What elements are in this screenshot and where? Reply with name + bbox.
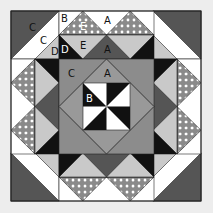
edge-unit-bottom	[59, 153, 154, 201]
corner-unit-bottom-right	[153, 153, 201, 201]
label-c-1: C	[29, 22, 36, 33]
label-c-2: C	[40, 35, 47, 46]
label-e-2: E	[80, 40, 86, 51]
label-a-3: A	[104, 68, 111, 79]
edge-unit-right	[153, 59, 201, 154]
label-b-2: B	[98, 84, 105, 95]
corner-unit-bottom-left	[11, 153, 59, 201]
label-a-2: A	[104, 44, 111, 55]
label-d-2: D	[61, 44, 69, 55]
pinwheel	[83, 83, 130, 130]
label-a-1: A	[104, 15, 111, 26]
label-b-3: B	[86, 93, 93, 104]
quilt-block-diagram: C C D B E A D E A C A B B	[0, 0, 213, 213]
corner-unit-top-right	[153, 11, 201, 59]
label-c-3: C	[68, 68, 75, 79]
edge-unit-left	[11, 59, 59, 154]
label-d-1: D	[51, 46, 59, 57]
label-e-1: E	[80, 21, 86, 32]
label-b-1: B	[61, 13, 68, 24]
